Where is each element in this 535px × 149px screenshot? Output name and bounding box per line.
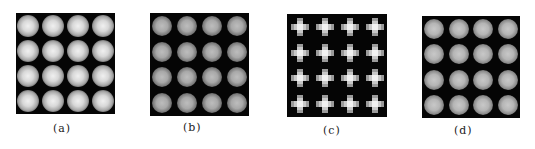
grid-cell: [16, 64, 41, 89]
panel-a-label: (a): [53, 122, 71, 135]
grid-cell: [175, 90, 200, 116]
grid-cell: [471, 93, 496, 119]
grid-cell: [90, 38, 115, 63]
grid-cell: [471, 42, 496, 68]
cross-spot: [291, 69, 309, 87]
panel-c-label: (c): [323, 124, 341, 137]
panel-b: [150, 13, 249, 116]
grid-cell: [66, 64, 91, 89]
grid-cell: [150, 13, 175, 39]
grid-cell: [337, 14, 362, 40]
light-spot: [177, 16, 197, 36]
light-spot: [424, 95, 444, 115]
grid-cell: [496, 16, 521, 42]
light-spot: [177, 42, 197, 62]
grid-cell: [66, 13, 91, 38]
light-spot: [17, 15, 39, 37]
grid-cell: [287, 91, 312, 117]
light-spot: [42, 65, 64, 87]
light-spot: [17, 65, 39, 87]
grid-cell: [175, 65, 200, 91]
light-spot: [92, 15, 114, 37]
light-spot: [227, 67, 247, 87]
cross-spot: [316, 44, 334, 62]
grid-cell: [422, 16, 447, 42]
light-spot: [449, 44, 469, 64]
grid-cell: [224, 13, 249, 39]
grid-cell: [496, 93, 521, 119]
grid-cell: [312, 66, 337, 92]
light-spot: [177, 67, 197, 87]
grid-cell: [90, 64, 115, 89]
cross-spot: [316, 69, 334, 87]
light-spot: [202, 42, 222, 62]
grid-cell: [496, 67, 521, 93]
grid-cell: [362, 40, 387, 66]
light-spot: [152, 16, 172, 36]
cross-spot: [366, 95, 384, 113]
grid-cell: [175, 13, 200, 39]
grid-cell: [41, 38, 66, 63]
cross-spot: [316, 18, 334, 36]
grid-cell: [90, 89, 115, 114]
cross-spot: [366, 18, 384, 36]
grid-cell: [422, 93, 447, 119]
grid-cell: [471, 16, 496, 42]
panel-b-label: (b): [183, 121, 202, 134]
grid-cell: [447, 42, 472, 68]
light-spot: [449, 19, 469, 39]
grid-cell: [224, 39, 249, 65]
grid-cell: [422, 42, 447, 68]
grid-cell: [200, 65, 225, 91]
grid-cell: [200, 13, 225, 39]
grid-cell: [337, 40, 362, 66]
grid-cell: [337, 66, 362, 92]
grid-cell: [90, 13, 115, 38]
light-spot: [92, 40, 114, 62]
light-spot: [67, 40, 89, 62]
light-spot: [67, 90, 89, 112]
grid-cell: [447, 67, 472, 93]
light-spot: [202, 67, 222, 87]
light-spot: [177, 93, 197, 113]
grid-cell: [471, 67, 496, 93]
light-spot: [424, 70, 444, 90]
grid-cell: [200, 39, 225, 65]
grid-cell: [175, 39, 200, 65]
cross-spot: [316, 95, 334, 113]
grid-cell: [224, 65, 249, 91]
light-spot: [152, 67, 172, 87]
light-spot: [152, 42, 172, 62]
light-spot: [498, 19, 518, 39]
light-spot: [152, 93, 172, 113]
light-spot: [449, 95, 469, 115]
grid-cell: [287, 66, 312, 92]
grid-cell: [287, 14, 312, 40]
light-spot: [227, 93, 247, 113]
cross-spot: [341, 95, 359, 113]
light-spot: [202, 16, 222, 36]
grid-cell: [224, 90, 249, 116]
grid-cell: [150, 65, 175, 91]
light-spot: [17, 40, 39, 62]
panel-d: [422, 16, 520, 118]
light-spot: [92, 90, 114, 112]
light-spot: [498, 44, 518, 64]
panel-d-label: (d): [454, 124, 473, 137]
light-spot: [67, 15, 89, 37]
light-spot: [17, 90, 39, 112]
grid-cell: [150, 90, 175, 116]
grid-cell: [312, 14, 337, 40]
grid-cell: [362, 14, 387, 40]
grid-cell: [41, 13, 66, 38]
light-spot: [227, 42, 247, 62]
light-spot: [473, 95, 493, 115]
cross-spot: [291, 18, 309, 36]
light-spot: [473, 44, 493, 64]
grid-cell: [16, 38, 41, 63]
light-spot: [449, 70, 469, 90]
light-spot: [498, 95, 518, 115]
light-spot: [424, 19, 444, 39]
panel-c: [287, 14, 387, 117]
grid-cell: [41, 89, 66, 114]
